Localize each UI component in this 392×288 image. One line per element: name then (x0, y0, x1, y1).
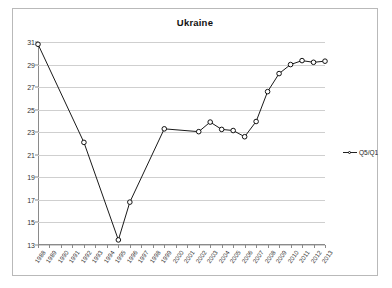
x-tick-label: 1991 (68, 249, 82, 264)
x-tick-mark (256, 245, 257, 248)
data-point (128, 200, 133, 205)
legend-marker-icon (343, 149, 357, 156)
data-point (288, 62, 293, 67)
chart-title: Ukraine (13, 17, 377, 28)
x-tick-label: 2013 (320, 249, 334, 264)
y-tick-label: 31 (27, 39, 35, 46)
y-tick-label: 27 (27, 84, 35, 91)
x-tick-label: 2012 (309, 249, 323, 264)
x-tick-label: 1998 (148, 249, 162, 264)
x-tick-label: 1990 (56, 249, 70, 264)
chart-legend: Q5/Q1 (343, 149, 378, 156)
x-tick-label: 1994 (102, 249, 116, 264)
x-tick-label: 2001 (182, 249, 196, 264)
data-point (219, 127, 224, 132)
x-tick-mark (325, 245, 326, 248)
x-tick-mark (210, 245, 211, 248)
data-point (82, 140, 87, 145)
series-q5q1 (38, 42, 325, 245)
x-tick-label: 2009 (274, 249, 288, 264)
y-tick-label: 23 (27, 129, 35, 136)
x-tick-label: 2011 (297, 249, 310, 264)
x-tick-mark (72, 245, 73, 248)
legend-label: Q5/Q1 (359, 149, 378, 156)
x-tick-label: 2002 (194, 249, 208, 264)
chart-container: Ukraine 13151719212325272931 19881989199… (12, 8, 378, 276)
y-tick-label: 19 (27, 174, 35, 181)
x-tick-mark (164, 245, 165, 248)
x-tick-label: 1996 (125, 249, 139, 264)
x-tick-label: 1997 (136, 249, 150, 264)
data-point (254, 119, 259, 124)
data-point (265, 89, 270, 94)
x-tick-label: 2006 (240, 249, 254, 264)
x-tick-label: 2007 (251, 249, 265, 264)
x-tick-mark (222, 245, 223, 248)
x-tick-mark (268, 245, 269, 248)
x-tick-mark (279, 245, 280, 248)
y-tick-label: 29 (27, 61, 35, 68)
x-tick-mark (49, 245, 50, 248)
data-point (36, 42, 41, 47)
x-tick-mark (153, 245, 154, 248)
x-tick-label: 1995 (113, 249, 127, 264)
x-tick-mark (130, 245, 131, 248)
x-tick-mark (233, 245, 234, 248)
y-tick-label: 15 (27, 219, 35, 226)
data-point (162, 127, 167, 132)
x-tick-label: 1992 (79, 249, 93, 264)
x-tick-mark (107, 245, 108, 248)
x-tick-mark (187, 245, 188, 248)
plot-area: 13151719212325272931 1988198919901991199… (38, 42, 325, 245)
series-line (38, 44, 325, 240)
x-tick-mark (95, 245, 96, 248)
x-tick-mark (84, 245, 85, 248)
x-tick-mark (302, 245, 303, 248)
x-tick-label: 2005 (228, 249, 242, 264)
x-tick-mark (314, 245, 315, 248)
x-tick-label: 2003 (205, 249, 219, 264)
x-tick-label: 2008 (263, 249, 277, 264)
x-tick-label: 2010 (286, 249, 300, 264)
data-point (208, 120, 213, 125)
x-tick-mark (245, 245, 246, 248)
x-tick-mark (199, 245, 200, 248)
data-point (300, 58, 305, 63)
data-point (242, 134, 247, 139)
x-tick-label: 1989 (45, 249, 59, 264)
y-tick-label: 21 (27, 151, 35, 158)
data-point (196, 129, 201, 134)
y-tick-label: 17 (27, 196, 35, 203)
x-tick-mark (141, 245, 142, 248)
data-point (116, 238, 121, 243)
x-tick-label: 1999 (159, 249, 173, 264)
y-tick-label: 13 (27, 242, 35, 249)
data-point (277, 71, 282, 76)
data-point (231, 128, 236, 133)
x-tick-label: 2000 (171, 249, 185, 264)
gridline (38, 245, 325, 246)
x-tick-label: 2004 (217, 249, 231, 264)
x-tick-mark (38, 245, 39, 248)
y-tick-label: 25 (27, 106, 35, 113)
x-tick-label: 1993 (90, 249, 104, 264)
x-tick-mark (291, 245, 292, 248)
x-tick-mark (61, 245, 62, 248)
x-tick-label: 1988 (33, 249, 47, 264)
data-point (311, 60, 316, 65)
x-tick-mark (176, 245, 177, 248)
x-tick-mark (118, 245, 119, 248)
data-point (323, 59, 328, 64)
